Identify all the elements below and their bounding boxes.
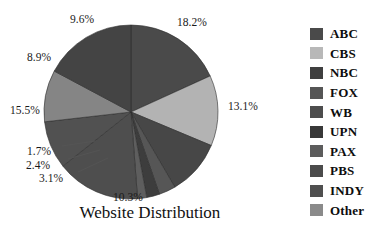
legend-swatch-icon: [310, 106, 323, 118]
slice-percent-label: 2.4%: [26, 160, 50, 172]
slice-percent-label: 8.9%: [27, 52, 51, 64]
legend-item-label: FOX: [330, 86, 358, 99]
legend-item[interactable]: NBC: [310, 63, 392, 83]
legend-item-label: ABC: [330, 27, 358, 40]
chart-title: Website Distribution: [0, 203, 300, 223]
legend-item-label: PAX: [330, 145, 356, 158]
legend-item[interactable]: WB: [310, 102, 392, 122]
legend-item-label: UPN: [330, 125, 357, 138]
legend-item[interactable]: CBS: [310, 44, 392, 64]
legend-item[interactable]: FOX: [310, 83, 392, 103]
pie-chart-area: 18.2%13.1%10.3%3.1%2.4%1.7%15.5%8.9%9.6%…: [0, 0, 300, 233]
legend-item[interactable]: UPN: [310, 122, 392, 142]
legend-swatch-icon: [310, 145, 323, 157]
slice-percent-label: 15.5%: [10, 105, 40, 117]
legend-swatch-icon: [310, 204, 323, 216]
slice-percent-label: 10.3%: [113, 192, 143, 204]
slice-percent-label: 9.6%: [70, 14, 94, 26]
legend-swatch-icon: [310, 126, 323, 138]
legend-swatch-icon: [310, 28, 323, 40]
legend-swatch-icon: [310, 165, 323, 177]
slice-percent-label: 1.7%: [27, 146, 51, 158]
pie-chart-svg: [0, 0, 300, 233]
legend-swatch-icon: [310, 185, 323, 197]
legend-item[interactable]: PAX: [310, 142, 392, 162]
legend-item[interactable]: INDY: [310, 181, 392, 201]
legend-item-label: CBS: [330, 47, 356, 60]
legend-item-label: PBS: [330, 164, 354, 177]
legend-item[interactable]: ABC: [310, 24, 392, 44]
legend-item[interactable]: PBS: [310, 161, 392, 181]
legend-swatch-icon: [310, 87, 323, 99]
slice-percent-label: 3.1%: [39, 173, 63, 185]
legend-swatch-icon: [310, 47, 323, 59]
legend-item-label: NBC: [330, 66, 358, 79]
legend-item[interactable]: Other: [310, 200, 392, 220]
legend-swatch-icon: [310, 67, 323, 79]
legend-item-label: Other: [330, 204, 364, 217]
slice-percent-label: 18.2%: [177, 17, 207, 29]
legend-item-label: INDY: [330, 184, 364, 197]
slice-percent-label: 13.1%: [228, 101, 258, 113]
legend-item-label: WB: [330, 106, 352, 119]
chart-legend: ABCCBSNBCFOXWBUPNPAXPBSINDYOther: [310, 24, 392, 220]
